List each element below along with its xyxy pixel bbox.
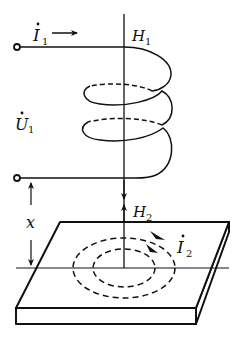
svg-text:1: 1 bbox=[145, 36, 151, 47]
dot-icon bbox=[21, 112, 24, 115]
eddy-current-diagram: I 1 H 1 U 1 H 2 I 2 x bbox=[0, 0, 238, 348]
svg-text:1: 1 bbox=[42, 36, 48, 47]
bottom-terminal-icon bbox=[14, 175, 20, 181]
svg-text:2: 2 bbox=[146, 212, 152, 223]
dot-icon bbox=[37, 23, 40, 26]
svg-text:I: I bbox=[32, 25, 40, 45]
svg-text:1: 1 bbox=[28, 124, 34, 135]
svg-text:I: I bbox=[176, 237, 184, 257]
dot-icon bbox=[182, 235, 185, 238]
svg-text:x: x bbox=[26, 213, 35, 232]
label-distance: x bbox=[24, 212, 38, 232]
svg-text:H: H bbox=[132, 203, 147, 221]
input-terminals bbox=[14, 44, 135, 181]
svg-text:U: U bbox=[15, 115, 29, 134]
label-field1: H 1 bbox=[131, 27, 151, 47]
svg-text:H: H bbox=[131, 27, 146, 45]
label-current1: I 1 bbox=[32, 23, 48, 47]
svg-text:2: 2 bbox=[186, 248, 192, 259]
label-field2: H 2 bbox=[132, 203, 152, 223]
excitation-coil bbox=[83, 47, 172, 178]
label-voltage1: U 1 bbox=[15, 112, 34, 135]
top-terminal-icon bbox=[14, 44, 20, 50]
